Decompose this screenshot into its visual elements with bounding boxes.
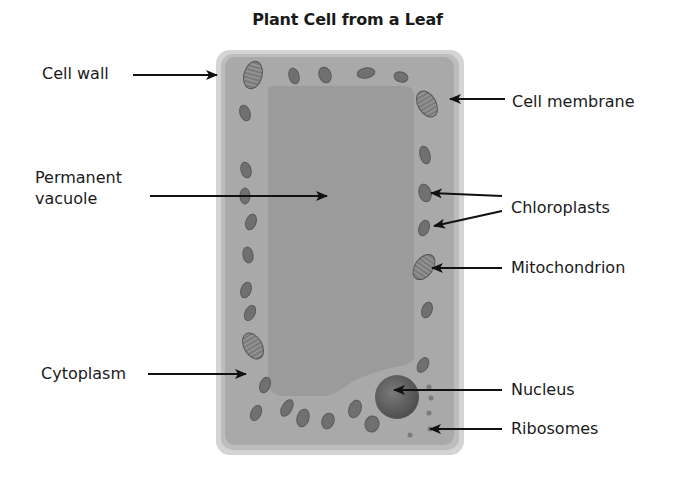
label-cell-membrane: Cell membrane [512,92,635,112]
label-cell-wall: Cell wall [42,64,109,84]
label-mitochondrion: Mitochondrion [511,258,625,278]
label-chloroplasts: Chloroplasts [511,198,610,218]
label-ribosomes: Ribosomes [511,419,598,439]
permanent-vacuole [268,86,414,396]
label-permanent-vacuole-line1: Permanent [35,168,122,188]
label-permanent-vacuole-line2: vacuole [35,189,97,209]
nucleus [375,375,419,419]
label-cytoplasm: Cytoplasm [41,364,126,384]
label-nucleus: Nucleus [511,380,575,400]
